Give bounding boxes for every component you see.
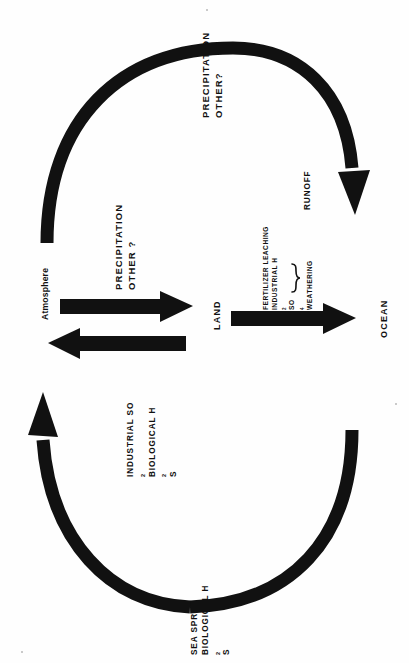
node-label-ocean: OCEAN bbox=[379, 299, 391, 338]
runoff-item-1: FERTILIZER LEACHING bbox=[262, 226, 271, 310]
scan-speck bbox=[21, 651, 23, 653]
emissions-line2-text: BIOLOGICAL H bbox=[148, 402, 159, 477]
emissions-line2b: S bbox=[169, 402, 180, 477]
precip-land-line1: PRECIPITATION bbox=[113, 204, 126, 290]
precip-ocean-line2: OTHER? bbox=[213, 32, 226, 118]
label-precipitation-other-ocean: PRECIPITATION OTHER? bbox=[200, 32, 225, 118]
atmosphere-text: Atmosphere bbox=[40, 268, 50, 320]
precip-land-line2: OTHER ? bbox=[126, 204, 139, 290]
arrow-land-to-atmosphere bbox=[48, 328, 186, 359]
land-text: LAND bbox=[212, 300, 222, 330]
label-runoff: RUNOFF bbox=[303, 170, 314, 210]
emissions-line2: BIOLOGICAL H2S bbox=[148, 402, 180, 477]
label-emissions-to-atmosphere: INDUSTRIAL SO2 BIOLOGICAL H2S bbox=[126, 402, 180, 477]
runoff-text: RUNOFF bbox=[303, 170, 312, 210]
seaspray-line1: SEA SPRAY bbox=[190, 585, 201, 655]
emissions-sub1: 2 bbox=[140, 474, 146, 477]
runoff-item-2-sub2: 4 bbox=[300, 308, 305, 311]
seaspray-line2: BIOLOGICAL H2S bbox=[201, 585, 233, 655]
runoff-item-2-pre: INDUSTRIAL H bbox=[271, 226, 280, 310]
seaspray-line2-text: BIOLOGICAL H bbox=[201, 585, 212, 655]
node-label-atmosphere: Atmosphere bbox=[40, 268, 51, 320]
ocean-text: OCEAN bbox=[379, 299, 389, 338]
label-precipitation-other-land: PRECIPITATION OTHER ? bbox=[113, 204, 138, 290]
runoff-item-2-sub1: 2 bbox=[282, 308, 287, 311]
emissions-sub2: 2 bbox=[162, 474, 168, 477]
node-label-land: LAND bbox=[212, 300, 224, 330]
runoff-item-2: INDUSTRIAL H2SO4 bbox=[271, 226, 306, 310]
seaspray-sub2: 2 bbox=[215, 652, 221, 655]
label-sea-spray: SEA SPRAY BIOLOGICAL H2S bbox=[190, 585, 233, 655]
seaspray-line2b: S bbox=[222, 585, 233, 655]
arrow-atmosphere-to-land bbox=[60, 291, 193, 322]
arc-ocean-to-atmosphere bbox=[28, 392, 352, 607]
runoff-item-3: WEATHERING bbox=[306, 226, 315, 310]
emissions-line1: INDUSTRIAL SO2 bbox=[126, 402, 148, 477]
precip-ocean-line1: PRECIPITATION bbox=[200, 32, 213, 118]
scan-speck bbox=[206, 9, 208, 11]
scan-speck bbox=[395, 403, 397, 405]
label-runoff-items: FERTILIZER LEACHING INDUSTRIAL H2SO4 WEA… bbox=[262, 226, 315, 310]
runoff-item-2-mid: SO bbox=[288, 226, 297, 310]
diagram-canvas: PRECIPITATION OTHER? PRECIPITATION OTHER… bbox=[0, 0, 409, 663]
emissions-line1-text: INDUSTRIAL SO bbox=[126, 402, 137, 477]
